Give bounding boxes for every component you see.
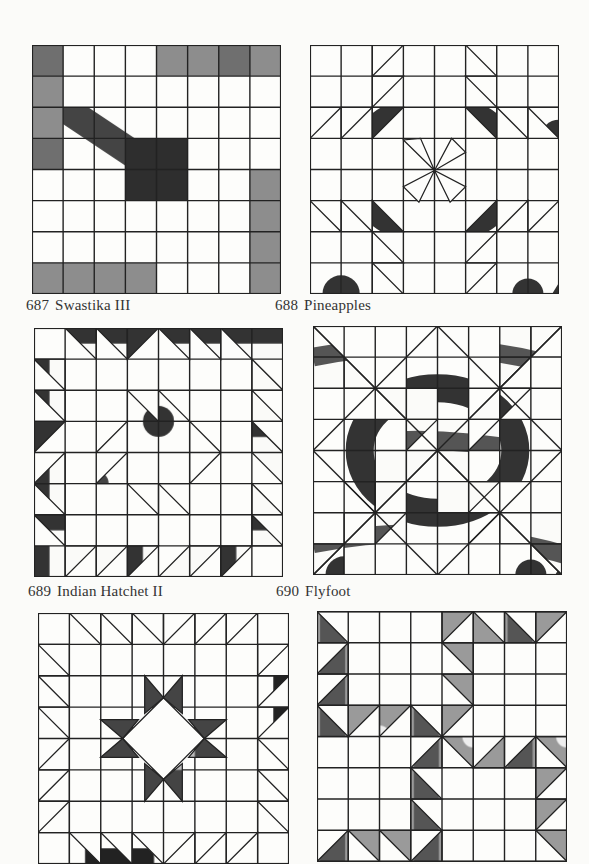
indian-hatchet-ii-diagram bbox=[34, 328, 283, 577]
caption-687: 687Swastika III bbox=[26, 297, 130, 314]
block-number: 690 bbox=[276, 583, 299, 599]
caption-689: 689Indian Hatchet II bbox=[28, 583, 163, 600]
caption-688: 688Pineapples bbox=[275, 297, 371, 314]
block-number: 689 bbox=[28, 583, 51, 599]
pineapples-diagram bbox=[310, 45, 559, 294]
star-block-diagram bbox=[38, 613, 289, 864]
triangle-block-diagram bbox=[317, 611, 567, 862]
quilt-block-689 bbox=[34, 328, 283, 577]
caption-690: 690Flyfoot bbox=[276, 583, 351, 600]
swastika-iii-diagram bbox=[32, 45, 281, 294]
quilt-block-691 bbox=[38, 613, 289, 864]
quilt-block-687 bbox=[32, 45, 281, 294]
quilt-block-692 bbox=[317, 611, 567, 862]
block-number: 688 bbox=[275, 297, 298, 313]
flyfoot-diagram bbox=[313, 326, 562, 575]
block-name: Pineapples bbox=[304, 297, 371, 313]
quilt-block-690 bbox=[313, 326, 562, 575]
block-number: 687 bbox=[26, 297, 49, 313]
quilt-block-688 bbox=[310, 45, 559, 294]
block-name: Flyfoot bbox=[305, 583, 351, 599]
block-name: Swastika III bbox=[55, 297, 130, 313]
block-name: Indian Hatchet II bbox=[57, 583, 163, 599]
